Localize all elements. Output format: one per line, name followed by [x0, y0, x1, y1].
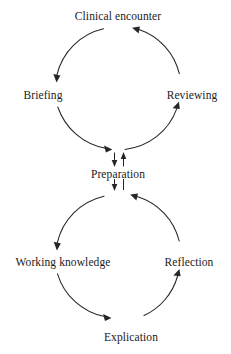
node-label-reflection: Reflection [165, 256, 214, 269]
arc-briefing-to-preparation [58, 107, 106, 148]
node-label-clinical-encounter: Clinical encounter [75, 10, 161, 23]
arrowhead-into-clinical-encounter [132, 27, 140, 34]
arc-preparation-to-working-knowledge [57, 196, 104, 243]
arrowhead-upper-right-up [121, 152, 127, 159]
arrowhead-into-reflection [173, 269, 180, 276]
arc-explication-to-reflection [144, 276, 178, 316]
arc-clinical-encounter-to-briefing [57, 29, 104, 76]
arrowhead-into-working-knowledge [54, 242, 61, 251]
arrowhead-upper-left-down [112, 160, 118, 167]
arc-preparation-to-reviewing [125, 109, 177, 150]
node-label-explication: Explication [104, 331, 158, 344]
arrowhead-into-preparation-lower-right [130, 193, 138, 200]
arrowhead-into-briefing [53, 74, 60, 83]
node-label-preparation: Preparation [91, 168, 145, 181]
arrowhead-into-reviewing [173, 102, 180, 109]
arrowhead-lower-left-down [112, 184, 118, 191]
arc-working-knowledge-to-explication [58, 274, 105, 317]
arrowhead-into-preparation-upper-left [104, 146, 112, 153]
arc-reflection-to-preparation [137, 196, 179, 241]
node-label-reviewing: Reviewing [167, 89, 218, 102]
arc-reviewing-to-clinical-encounter [139, 30, 179, 74]
node-label-working-knowledge: Working knowledge [16, 256, 111, 269]
node-label-briefing: Briefing [23, 89, 62, 102]
diagram-canvas: Clinical encounter Briefing Reviewing Pr… [0, 0, 231, 354]
arrowhead-into-explication [103, 314, 111, 321]
